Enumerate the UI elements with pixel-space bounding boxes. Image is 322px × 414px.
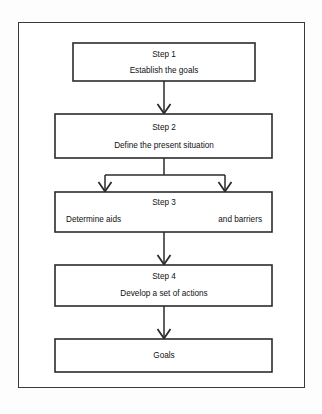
edge-step4-to-goals (158, 306, 171, 339)
node-step1-heading: Step 1 (152, 50, 176, 59)
node-step4-box[interactable] (55, 265, 272, 306)
node-goals-label: Goals (153, 351, 174, 360)
node-step3-heading: Step 3 (152, 198, 176, 207)
node-step2-box[interactable] (55, 114, 272, 158)
node-step2[interactable]: Step 2 Define the present situation (55, 114, 272, 158)
node-step2-heading: Step 2 (152, 123, 176, 132)
node-step3-line-2: and barriers (218, 215, 262, 224)
node-goals[interactable]: Goals (55, 339, 272, 372)
flowchart-svg: Step 1 Establish the goals Step 2 Define… (0, 0, 322, 414)
node-step3[interactable]: Step 3 Determine aids and barriers (55, 192, 272, 232)
diagram-canvas: Step 1 Establish the goals Step 2 Define… (0, 0, 322, 414)
edge-step3-to-step4 (158, 232, 171, 265)
node-step4-heading: Step 4 (152, 272, 176, 281)
node-step4-line-1: Develop a set of actions (120, 289, 207, 298)
edge-step1-to-step2 (158, 81, 171, 114)
node-step4[interactable]: Step 4 Develop a set of actions (55, 265, 272, 306)
edge-step2-to-step3-fork (99, 158, 232, 192)
node-step2-line-1: Define the present situation (114, 141, 214, 150)
node-step3-line-1: Determine aids (66, 215, 121, 224)
node-step1-box[interactable] (73, 43, 255, 81)
node-step1-line-1: Establish the goals (130, 66, 199, 75)
node-step1[interactable]: Step 1 Establish the goals (73, 43, 255, 81)
